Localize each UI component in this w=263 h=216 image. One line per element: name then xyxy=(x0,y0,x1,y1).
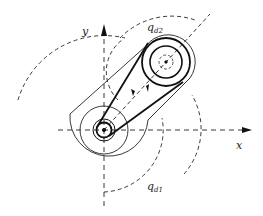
y-axis-label: y xyxy=(81,25,89,38)
belt xyxy=(97,43,183,136)
x-axis-arrow-icon xyxy=(242,127,252,133)
joint2-pivot xyxy=(165,61,167,63)
rotation-markers xyxy=(131,84,149,96)
link-body xyxy=(70,35,195,156)
marker-2-icon xyxy=(146,84,149,92)
y-axis-arrow-icon xyxy=(101,24,107,36)
link-outline xyxy=(70,35,195,156)
arc-q-d1-lower xyxy=(104,118,163,192)
marker-1-icon xyxy=(131,89,135,96)
arc-q-d2-lower xyxy=(184,95,201,174)
robot-arm-diagram: y x qd2 qd1 xyxy=(0,0,263,216)
angle-q-d1-label: qd1 xyxy=(147,180,163,194)
angle-arcs xyxy=(18,14,210,192)
arc-q-d1 xyxy=(18,36,125,100)
angle-q-d2-label: qd2 xyxy=(147,21,164,35)
x-axis-label: x xyxy=(236,139,243,152)
base-pivot xyxy=(102,128,105,131)
